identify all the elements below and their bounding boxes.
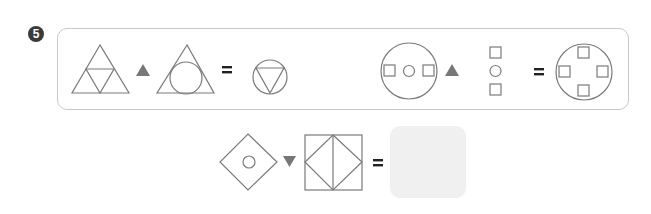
equals-sign	[222, 66, 232, 73]
operator-up-triangle-icon	[136, 64, 150, 76]
vertical-square-circle-square-icon	[490, 47, 501, 95]
operator-up-triangle-icon	[445, 64, 459, 76]
figures-canvas	[0, 0, 651, 214]
answer-box[interactable]	[390, 126, 466, 198]
equals-sign	[373, 159, 383, 166]
circle-with-inverted-triangle-icon	[253, 60, 287, 94]
subdivided-triangle-icon	[72, 45, 129, 93]
square-with-diamond-icon	[305, 135, 362, 190]
operator-down-triangle-icon	[283, 156, 296, 167]
triangle-with-circle-icon	[157, 45, 214, 94]
equals-sign	[534, 68, 544, 75]
diamond-with-circle-icon	[220, 134, 277, 190]
circle-with-four-squares-icon	[556, 44, 612, 100]
circle-with-horizontal-squares-icon	[381, 43, 437, 99]
